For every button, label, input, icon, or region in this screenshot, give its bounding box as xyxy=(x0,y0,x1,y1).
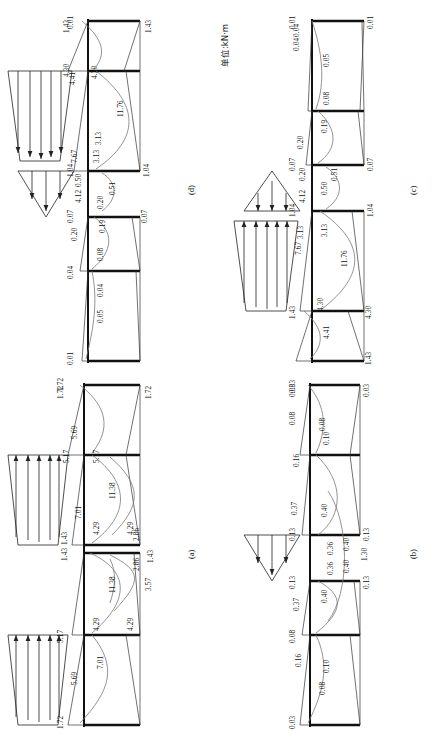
panel-b: 0.03 0.08 0.03 0.08 0.10 0.16 0.37 0.40 … xyxy=(232,379,440,731)
value-label: 1.43 xyxy=(146,20,153,33)
value-label: 0.04 xyxy=(294,38,301,51)
value-label: 0.07 xyxy=(68,210,75,223)
value-label: 7.01 xyxy=(98,656,105,669)
value-label: 1.72 xyxy=(58,716,65,729)
value-label: 5.17 xyxy=(64,450,71,463)
value-label: 0.20 xyxy=(98,196,105,209)
value-label: 0.13 xyxy=(290,528,297,541)
value-label: 0.50 xyxy=(322,182,329,195)
value-label: 0.05 xyxy=(324,54,331,67)
panel-c: 0.01 0.04 0.01 0.05 0.04 0.08 0.20 0.19 … xyxy=(6,15,218,367)
value-label: 0.40 xyxy=(344,560,351,573)
value-label: 0.08 xyxy=(320,682,327,695)
value-label: 0.20 xyxy=(300,168,307,181)
value-label: 4.29 xyxy=(94,522,101,535)
value-label: 7.67 xyxy=(296,242,303,255)
value-label: 0.03 xyxy=(364,384,371,397)
value-label: 0.07 xyxy=(368,158,375,171)
value-label: 0.07 xyxy=(142,210,149,223)
value-label: 1.72 xyxy=(146,386,153,399)
panel-a: 1.72 5.17 1.72 5.69 11.38 7.01 4.29 4.29… xyxy=(6,379,218,731)
value-label: 0.40 xyxy=(322,504,329,517)
value-label: 0.37 xyxy=(292,502,299,515)
value-label: 1.43 xyxy=(148,550,155,563)
value-label: 0.50 xyxy=(76,174,83,187)
panel-d-caption: (c) xyxy=(408,186,418,195)
value-label: 0.19 xyxy=(322,120,329,133)
value-label: 0.19 xyxy=(100,220,107,233)
value-label: 1.43 xyxy=(64,20,71,33)
value-label: 0.10 xyxy=(324,660,331,673)
panel-b-caption: (b) xyxy=(408,549,418,559)
value-label: 11.76 xyxy=(342,250,349,267)
value-label: 11.76 xyxy=(118,100,125,117)
value-label: 5.69 xyxy=(72,426,79,439)
value-label: 0.04 xyxy=(68,266,75,279)
value-label: 1.43 xyxy=(366,352,373,365)
value-label: 0.08 xyxy=(290,412,297,425)
value-label: 0.08 xyxy=(290,630,297,643)
load-diagram-b xyxy=(244,535,300,581)
value-label: 4.30 xyxy=(64,64,71,77)
value-label: 1.04 xyxy=(144,164,151,177)
value-label: 4.12 xyxy=(300,190,307,203)
value-label: 7.67 xyxy=(72,150,79,163)
value-label: 4.30 xyxy=(92,66,99,79)
value-label: 2.86 xyxy=(134,558,141,571)
value-label: 0.20 xyxy=(298,136,305,149)
value-label: 0.08 xyxy=(320,418,327,431)
value-label: 0.13 xyxy=(290,576,297,589)
value-label: 0.13 xyxy=(364,528,371,541)
value-label: 0.01 xyxy=(290,16,297,29)
value-label: 4.12 xyxy=(76,190,83,203)
value-label: 0.16 xyxy=(296,654,303,667)
panel-a-caption: (a) xyxy=(186,550,196,559)
value-label: 1.43 xyxy=(290,306,297,319)
value-label: 1.72 xyxy=(58,386,65,399)
value-label: 0.04 xyxy=(98,284,105,297)
value-label: 3.13 xyxy=(94,150,101,163)
value-label: 0.20 xyxy=(72,228,79,241)
value-label: 0.13 xyxy=(364,576,371,589)
load-diagram-c xyxy=(8,71,74,217)
value-label: 1.04 xyxy=(68,164,75,177)
value-label: 0.05 xyxy=(98,310,105,323)
value-label: 0.03 xyxy=(290,716,297,729)
value-label: 0.51 xyxy=(110,182,117,195)
value-label: 0.08 xyxy=(324,92,331,105)
value-label: 3.13 xyxy=(322,224,329,237)
unit-note: 单位:kN·m xyxy=(218,24,230,67)
value-label: 1.43 xyxy=(62,548,69,561)
value-label: 0.37 xyxy=(294,598,301,611)
panel-c-caption: (d) xyxy=(186,185,196,195)
value-label: 4.29 xyxy=(128,522,135,535)
rotated-plate: 1.72 5.17 1.72 5.69 11.38 7.01 4.29 4.29… xyxy=(0,0,447,739)
value-label: 1.43 xyxy=(62,532,69,545)
value-label: 1.30 xyxy=(362,548,369,561)
value-label: 1.04 xyxy=(368,204,375,217)
value-label: 0.08 xyxy=(98,248,105,261)
load-diagram-left-a xyxy=(8,635,68,725)
value-label: 7.01 xyxy=(76,506,83,519)
value-label: 0.03 xyxy=(290,384,297,397)
value-label: 0.01 xyxy=(68,352,75,365)
value-label: 0.16 xyxy=(294,454,301,467)
value-label: 4.29 xyxy=(94,618,101,631)
value-label: 0.36 xyxy=(328,542,335,555)
value-label: 3.13 xyxy=(96,132,103,145)
value-label: 0.40 xyxy=(344,538,351,551)
value-label: 0.36 xyxy=(328,562,335,575)
value-label: 5.17 xyxy=(94,450,101,463)
value-label: 3.57 xyxy=(146,578,153,591)
value-label: 0.10 xyxy=(324,432,331,445)
value-label: 4.30 xyxy=(366,306,373,319)
value-label: 0.51 xyxy=(332,168,339,181)
load-diagram-right-a xyxy=(8,455,68,545)
panel-d: 1.43 4.30 1.43 4.41 4.30 11.76 7.67 3.13… xyxy=(232,15,440,367)
value-label: 4.29 xyxy=(128,618,135,631)
value-label: 5.69 xyxy=(72,672,79,685)
value-label: 5.17 xyxy=(58,630,65,643)
value-label: 11.38 xyxy=(110,576,117,593)
value-label: 4.30 xyxy=(318,298,325,311)
value-label: 4.41 xyxy=(324,326,331,339)
